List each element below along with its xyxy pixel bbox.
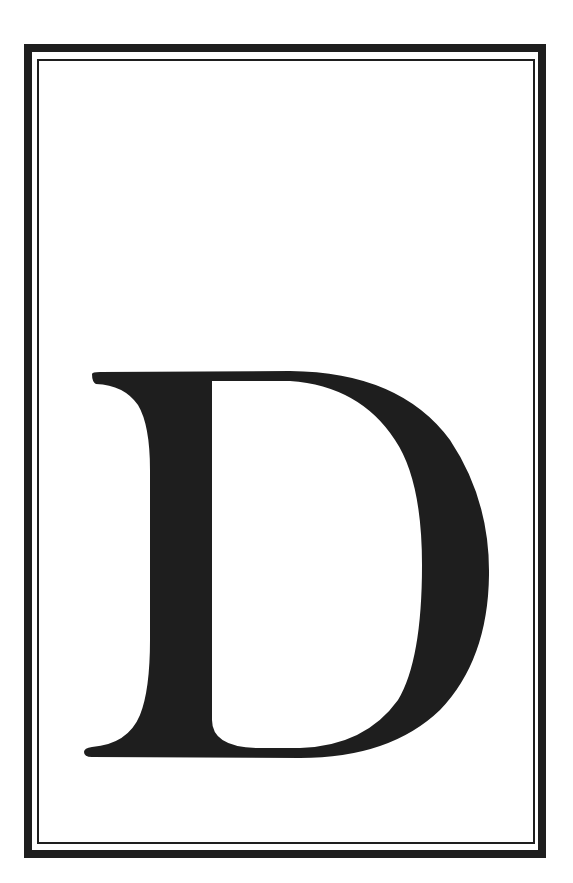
drop-cap-letter-d-glyph <box>0 0 573 883</box>
